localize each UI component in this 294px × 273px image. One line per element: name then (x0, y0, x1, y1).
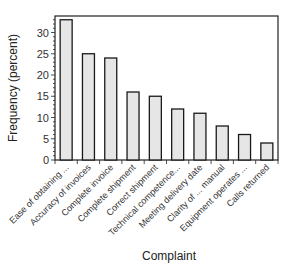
y-tick-label: 10 (37, 112, 49, 124)
bars (60, 20, 273, 160)
y-tick-label: 20 (37, 69, 49, 81)
y-axis-title: Frequency (percent) (6, 34, 20, 142)
bar (127, 92, 139, 160)
bar (194, 113, 206, 160)
x-axis-title: Complaint (142, 249, 197, 263)
y-tick-label: 25 (37, 48, 49, 60)
bar (60, 20, 72, 160)
bar (82, 54, 94, 160)
pareto-bar-chart: 051015202530 Ease of obtaining ...Accura… (0, 0, 294, 273)
y-tick-label: 5 (43, 133, 49, 145)
x-axis: Ease of obtaining ...Accuracy of invoice… (7, 160, 278, 238)
bar (261, 143, 273, 160)
bar (216, 126, 228, 160)
bar (172, 109, 184, 160)
y-tick-label: 30 (37, 27, 49, 39)
y-tick-label: 15 (37, 90, 49, 102)
y-axis: 051015202530 (37, 20, 55, 166)
bar (149, 96, 161, 160)
bar (105, 58, 117, 160)
y-tick-label: 0 (43, 154, 49, 166)
bar (239, 135, 251, 161)
